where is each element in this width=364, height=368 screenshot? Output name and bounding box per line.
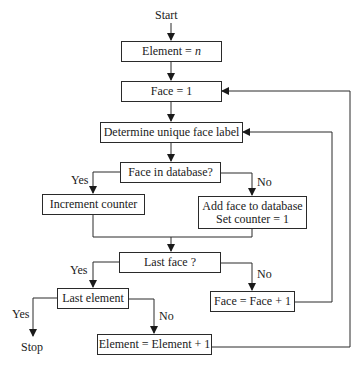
last-element-decision: Last element — [57, 288, 129, 309]
add-face-text: Add face to database — [202, 200, 302, 213]
element-increment-text: Element = Element + 1 — [99, 338, 211, 351]
set-counter-text: Set counter = 1 — [216, 213, 289, 226]
edge-last-element-no — [128, 299, 154, 333]
face-in-db-no-label: No — [257, 176, 272, 189]
face-in-db-decision: Face in database? — [120, 162, 221, 183]
edge-last-element-yes — [33, 298, 57, 336]
element-init-box: Element = n — [121, 41, 222, 62]
face-in-db-text: Face in database? — [128, 166, 213, 179]
last-face-text: Last face ? — [144, 256, 196, 269]
last-element-text: Last element — [62, 292, 124, 305]
edge-face-in-db-no — [221, 173, 252, 195]
last-element-yes-label: Yes — [12, 308, 29, 321]
last-face-yes-label: Yes — [70, 264, 87, 277]
face-init-text: Face = 1 — [151, 85, 192, 98]
edge-face-in-db-yes — [93, 172, 120, 193]
element-init-var: n — [195, 45, 201, 58]
stop-terminal: Stop — [21, 341, 43, 354]
face-in-db-yes-label: Yes — [71, 174, 88, 187]
start-terminal: Start — [155, 9, 178, 22]
last-face-no-label: No — [257, 268, 272, 281]
edge-add-face-to-merge — [171, 228, 252, 237]
increment-counter-text: Increment counter — [50, 198, 138, 211]
face-increment-text: Face = Face + 1 — [214, 295, 291, 308]
edge-increment-to-merge — [93, 214, 171, 237]
last-element-no-label: No — [159, 310, 174, 323]
edge-last-face-yes — [93, 262, 119, 287]
increment-counter-box: Increment counter — [42, 194, 145, 215]
face-init-box: Face = 1 — [121, 81, 222, 102]
add-face-box: Add face to database Set counter = 1 — [198, 196, 307, 229]
determine-label-box: Determine unique face label — [100, 122, 243, 143]
element-init-text: Element = — [142, 45, 195, 58]
face-increment-box: Face = Face + 1 — [210, 291, 295, 312]
last-face-decision: Last face ? — [119, 252, 221, 273]
determine-label-text: Determine unique face label — [104, 126, 240, 139]
edge-last-face-no — [220, 263, 252, 290]
element-increment-box: Element = Element + 1 — [97, 334, 212, 355]
